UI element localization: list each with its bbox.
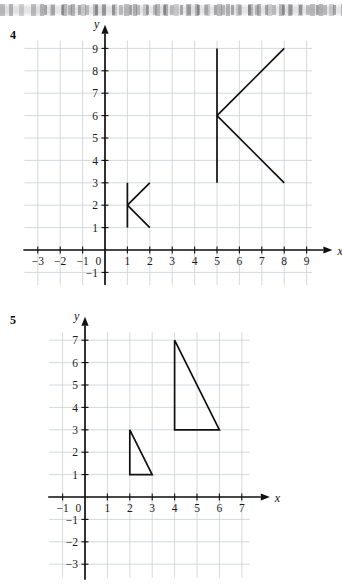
graph-figure-5: −101234567−3−2−11234567xy (0, 305, 342, 587)
x-tick-label: −1 (76, 255, 88, 267)
large-k-figure-lower-arm (217, 116, 284, 183)
x-tick-label: 4 (192, 255, 198, 267)
x-tick-label: 4 (172, 502, 178, 514)
x-tick-label: 1 (105, 502, 111, 514)
x-axis-label: x (336, 244, 342, 258)
x-tick-label: 6 (237, 255, 243, 267)
x-tick-label: 7 (239, 502, 245, 514)
y-tick-label: 2 (72, 446, 78, 458)
x-tick-label: −3 (32, 255, 44, 267)
y-tick-label: 8 (92, 65, 98, 77)
y-axis-arrowhead (101, 25, 108, 34)
x-axis-arrowhead (323, 246, 332, 253)
x-tick-label: −2 (54, 255, 66, 267)
axes (23, 25, 332, 285)
x-tick-label: 5 (194, 502, 200, 514)
x-axis-label: x (274, 491, 281, 505)
gridlines (49, 332, 249, 577)
large-k-figure-upper-arm (217, 48, 284, 115)
x-tick-label: 9 (304, 255, 310, 267)
y-tick-label: 4 (92, 155, 98, 167)
x-tick-label: 6 (217, 502, 223, 514)
y-tick-label: 6 (72, 357, 78, 369)
x-axis-arrowhead (261, 493, 270, 500)
graph-figure-4: −3−2−10123456789−1123456789xy (0, 20, 342, 285)
axes (48, 317, 270, 580)
y-tick-label: 3 (72, 424, 78, 436)
y-tick-label: 4 (72, 402, 78, 414)
x-tick-label: 7 (259, 255, 265, 267)
coordinate-plane-5: −101234567−3−2−11234567xy (0, 305, 342, 587)
x-tick-label: 5 (214, 255, 220, 267)
origin-label: 0 (76, 502, 82, 514)
y-axis-label: y (73, 309, 80, 323)
origin-label: 0 (96, 255, 102, 267)
x-tick-label: 2 (127, 502, 133, 514)
y-tick-label: 3 (92, 177, 98, 189)
y-tick-label: 7 (72, 334, 78, 346)
y-tick-label: 5 (92, 132, 98, 144)
x-tick-label: 8 (281, 255, 287, 267)
small-k-figure-lower-arm (127, 205, 149, 227)
y-tick-label: 6 (92, 110, 98, 122)
x-tick-label: 3 (169, 255, 175, 267)
small-k-figure-upper-arm (127, 183, 149, 205)
y-tick-label: 7 (92, 87, 98, 99)
x-tick-label: 3 (149, 502, 155, 514)
gridlines (24, 41, 312, 285)
scan-smudge-band-texture (44, 5, 339, 15)
coordinate-plane-4: −3−2−10123456789−1123456789xy (0, 20, 342, 285)
y-tick-label: −1 (66, 514, 78, 526)
y-tick-label: 5 (72, 379, 78, 391)
y-tick-label: −1 (86, 267, 98, 279)
x-tick-label: −1 (56, 502, 68, 514)
y-tick-label: 1 (72, 469, 78, 481)
y-axis-arrowhead (81, 317, 88, 326)
y-tick-label: 9 (92, 43, 98, 55)
x-tick-label: 1 (125, 255, 131, 267)
x-tick-label: 2 (147, 255, 153, 267)
y-tick-label: −2 (66, 536, 78, 548)
y-axis-label: y (93, 20, 100, 31)
y-tick-label: 1 (92, 222, 98, 234)
y-tick-label: −3 (66, 558, 78, 570)
y-tick-label: 2 (92, 199, 98, 211)
